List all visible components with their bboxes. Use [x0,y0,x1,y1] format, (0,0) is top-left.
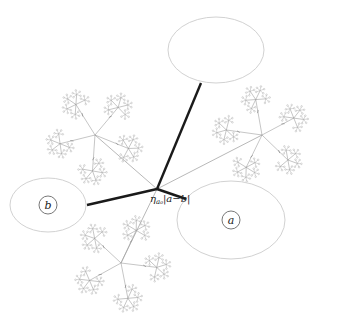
sub-star [241,86,270,114]
ellipse-b-group: b [10,178,86,232]
sub-star [233,157,260,182]
sub-star [212,115,238,144]
sub-star [113,284,142,312]
sub-star [75,267,105,295]
top-ellipse [168,17,264,83]
sub-star [275,146,302,175]
tree-bottom [75,215,171,312]
hub-label: ηa₀|a−b| [150,193,190,206]
tree-upper-left [46,90,143,185]
node-b-label: b [44,199,51,212]
hub-label-distance: |a−b| [163,193,190,205]
sub-star [46,129,74,158]
thick-edge-to-b [87,189,157,205]
sub-star [78,159,108,185]
tree-diagram: b a ηa₀|a−b| [0,0,338,323]
ellipse-a-group: a [177,181,285,259]
tree-right [212,86,308,183]
thick-edge-to-top [157,83,201,189]
sub-star [123,215,150,240]
sub-star [104,93,132,120]
thin-edge-to-upper-left-tree [95,135,157,189]
sub-star [145,253,171,282]
sub-star [279,104,309,132]
sub-star [80,224,107,253]
sub-star [62,90,90,120]
ellipse-top [168,17,264,83]
node-a-label: a [228,214,235,227]
